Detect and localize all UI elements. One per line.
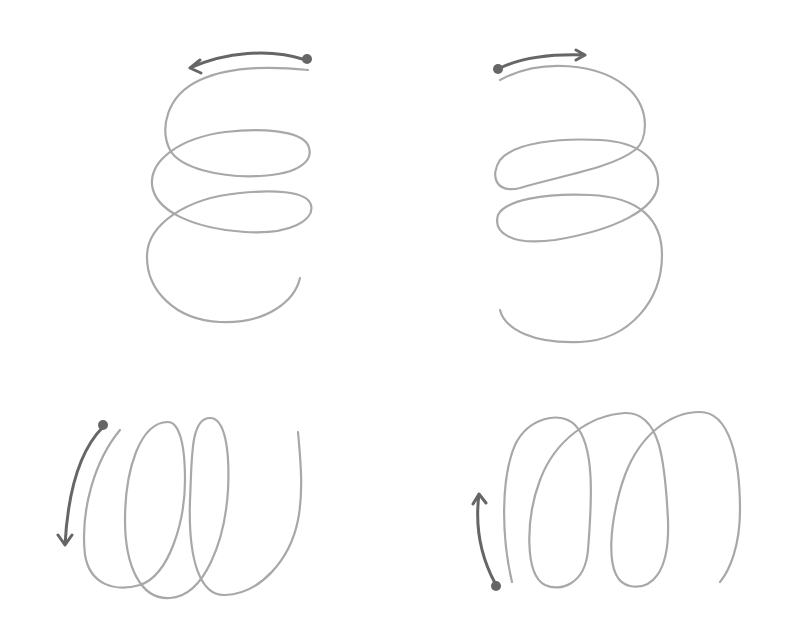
coil-sketches-figure <box>0 0 788 639</box>
coil-stroke <box>147 68 311 322</box>
panel-top-left-coil <box>147 53 312 322</box>
coil-stroke <box>495 66 662 342</box>
panel-bottom-left-coil <box>58 418 301 598</box>
panel-bottom-right-coil <box>473 412 740 591</box>
arrow-down-icon <box>58 427 103 545</box>
start-dot-icon <box>98 420 108 430</box>
arrow-up-icon <box>473 494 495 583</box>
panel-top-right-coil <box>493 50 662 342</box>
coil-stroke <box>84 418 301 598</box>
start-dot-icon <box>302 54 312 64</box>
arrow-left-icon <box>190 53 306 73</box>
start-dot-icon <box>493 64 503 74</box>
coil-stroke <box>504 412 740 587</box>
start-dot-icon <box>491 581 501 591</box>
arrow-right-icon <box>500 50 585 68</box>
